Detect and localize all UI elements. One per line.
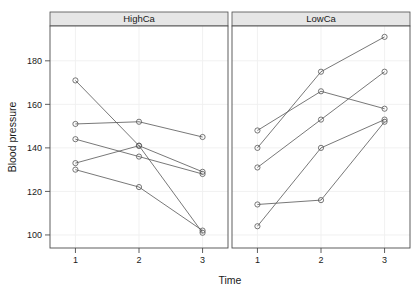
x-tick-label-lowca-3: 3 bbox=[382, 255, 387, 265]
x-tick-label-lowca-1: 1 bbox=[255, 255, 260, 265]
y-tick-label-180: 180 bbox=[27, 56, 42, 66]
lattice-xyplot: HighCaLowCa100120140160180123123TimeBloo… bbox=[0, 0, 420, 292]
x-tick-label-highca-3: 3 bbox=[200, 255, 205, 265]
y-tick-label-120: 120 bbox=[27, 187, 42, 197]
y-axis-title: Blood pressure bbox=[6, 102, 18, 173]
strip-label-highca: HighCa bbox=[123, 13, 155, 24]
x-tick-label-highca-1: 1 bbox=[73, 255, 78, 265]
y-tick-label-160: 160 bbox=[27, 100, 42, 110]
y-tick-label-140: 140 bbox=[27, 143, 42, 153]
y-tick-label-100: 100 bbox=[27, 230, 42, 240]
strip-label-lowca: LowCa bbox=[306, 13, 336, 24]
x-axis-title: Time bbox=[219, 274, 242, 286]
x-tick-label-highca-2: 2 bbox=[136, 255, 141, 265]
x-tick-label-lowca-2: 2 bbox=[318, 255, 323, 265]
plot-root: HighCaLowCa100120140160180123123TimeBloo… bbox=[0, 0, 420, 292]
